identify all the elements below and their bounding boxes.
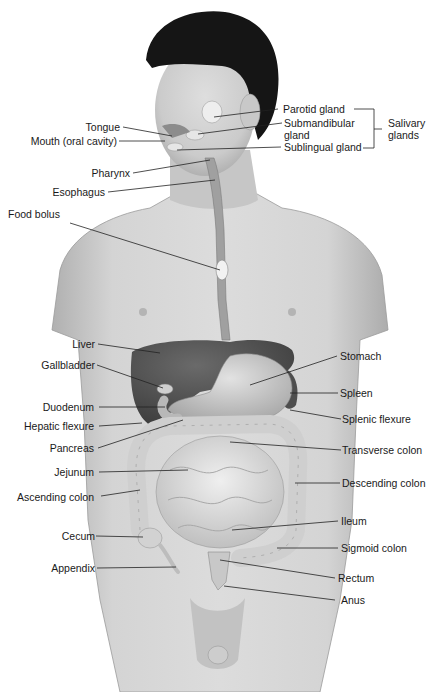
label-hepatic-flexure: Hepatic flexure <box>24 420 94 432</box>
label-transverse-colon: Transverse colon <box>342 444 422 456</box>
label-ascending-colon: Ascending colon <box>17 491 94 503</box>
label-submandibular-gland: Submandibular gland <box>284 117 356 141</box>
food-bolus-shape <box>216 260 228 280</box>
label-sigmoid-colon: Sigmoid colon <box>341 542 407 554</box>
label-rectum: Rectum <box>338 572 374 584</box>
label-appendix: Appendix <box>51 562 95 574</box>
label-anus: Anus <box>341 594 365 606</box>
label-stomach: Stomach <box>340 350 381 362</box>
label-tongue: Tongue <box>86 121 120 133</box>
parotid-gland-shape <box>202 101 222 123</box>
digestive-system-diagram: Tongue Mouth (oral cavity) Pharynx Esoph… <box>0 0 435 692</box>
label-liver: Liver <box>72 338 95 350</box>
label-ileum: Ileum <box>341 515 367 527</box>
label-parotid-gland: Parotid gland <box>283 103 345 115</box>
label-esophagus: Esophagus <box>52 186 105 198</box>
anatomy-illustration <box>0 0 435 692</box>
label-descending-colon: Descending colon <box>342 477 425 489</box>
label-food-bolus: Food bolus <box>8 208 60 220</box>
label-pharynx: Pharynx <box>91 167 130 179</box>
label-gallbladder: Gallbladder <box>41 359 95 371</box>
label-mouth: Mouth (oral cavity) <box>31 135 117 147</box>
label-sublingual-gland: Sublingual gland <box>284 141 362 153</box>
label-duodenum: Duodenum <box>43 401 94 413</box>
label-jejunum: Jejunum <box>54 466 94 478</box>
label-spleen: Spleen <box>340 387 373 399</box>
gallbladder-shape <box>157 384 173 394</box>
label-cecum: Cecum <box>62 530 95 542</box>
label-salivary-glands: Salivary glands <box>388 117 433 141</box>
label-splenic-flexure: Splenic flexure <box>342 413 411 425</box>
label-pancreas: Pancreas <box>50 442 94 454</box>
